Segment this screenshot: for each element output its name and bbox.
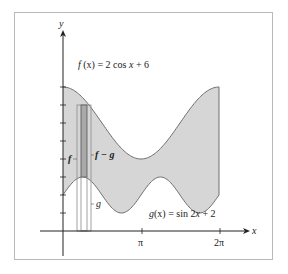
g-eq-body: = sin 2 [166,208,196,219]
g-rect-label: g [96,199,101,209]
f-minus-g-rectangle [81,105,87,177]
x-axis-label: x [252,226,256,236]
y-axis-label: y [59,19,63,29]
chart-plot [0,0,288,274]
fg-rect-label: f − g [95,150,114,160]
g-eq-tail: + 2 [200,208,216,219]
f-eq-arg: (x) [83,59,95,70]
x-tick-label-pi: π [138,238,143,248]
f-eq-body: = 2 cos [95,59,129,70]
g-rectangle [81,177,87,231]
x-tick-label-2pi: 2π [214,238,224,248]
g-equation: g(x) = sin 2x + 2 [149,209,216,219]
f-eq-tail: + 6 [133,59,149,70]
f-eq-name: f [78,59,81,70]
f-equation: f (x) = 2 cos x + 6 [78,60,149,70]
f-rect-label: f [68,154,71,164]
g-eq-arg: (x) [154,208,166,219]
